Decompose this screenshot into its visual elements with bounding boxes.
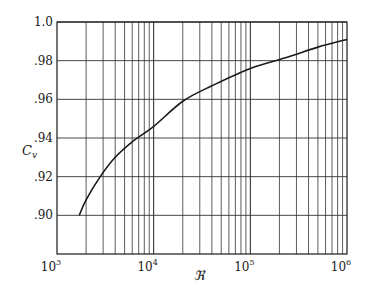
x-tick-label: 106 bbox=[331, 258, 351, 274]
grid-lines bbox=[57, 22, 347, 254]
y-tick-label: .94 bbox=[34, 131, 53, 145]
x-axis-label: ℜ bbox=[194, 268, 206, 283]
x-tick-label: 104 bbox=[137, 258, 157, 274]
y-tick-label: .90 bbox=[34, 208, 53, 222]
x-tick-label: 105 bbox=[234, 258, 254, 274]
y-tick-label: 1.0 bbox=[34, 15, 53, 29]
cv-curve bbox=[79, 39, 347, 215]
y-tick-labels: 1.0.98.96.94.92.90 bbox=[34, 15, 53, 222]
x-tick-label: 103 bbox=[41, 258, 61, 274]
y-tick-label: .92 bbox=[34, 170, 53, 184]
y-tick-label: .98 bbox=[34, 54, 53, 68]
y-axis-label: Cv bbox=[22, 143, 37, 160]
cv-vs-reynolds-chart: 1.0.98.96.94.92.90 103104105106 Cv ℜ bbox=[0, 0, 374, 299]
y-tick-label: .96 bbox=[34, 92, 53, 106]
